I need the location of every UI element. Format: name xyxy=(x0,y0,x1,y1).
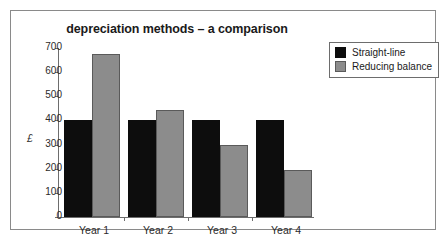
legend-label: Reducing balance xyxy=(352,61,432,72)
legend-label: Straight-line xyxy=(352,47,405,58)
chart-legend: Straight-lineReducing balance xyxy=(329,42,439,78)
bar-year-3-reducing-balance xyxy=(220,145,248,217)
y-tick-label: 600 xyxy=(22,65,62,76)
x-tick-label: Year 2 xyxy=(121,224,195,236)
bar-year-1-reducing-balance xyxy=(92,54,120,217)
bar-year-2-straight-line xyxy=(128,120,156,217)
legend-item: Straight-line xyxy=(335,47,433,58)
y-tick-label: 100 xyxy=(22,186,62,197)
y-tick-label: 700 xyxy=(22,41,62,52)
bar-year-3-straight-line xyxy=(192,120,220,217)
plot-area: £ 7006005004003002001000 Year 1Year 2Yea… xyxy=(58,48,314,242)
y-tick-label: 0 xyxy=(22,210,62,221)
x-tick-label: Year 3 xyxy=(185,224,259,236)
y-tick-label: 500 xyxy=(22,89,62,100)
legend-swatch-icon xyxy=(335,47,346,58)
x-tick-label: Year 1 xyxy=(57,224,131,236)
y-tick-label: 300 xyxy=(22,138,62,149)
chart-title: depreciation methods – a comparison xyxy=(57,22,297,36)
legend-item: Reducing balance xyxy=(335,61,433,72)
x-tick-mark xyxy=(188,217,189,221)
bar-year-4-straight-line xyxy=(256,120,284,217)
y-tick-label: 400 xyxy=(22,113,62,124)
x-tick-mark xyxy=(124,217,125,221)
bar-year-4-reducing-balance xyxy=(284,170,312,217)
bar-year-1-straight-line xyxy=(64,120,92,217)
chart-frame: depreciation methods – a comparison £ 70… xyxy=(10,10,436,230)
x-tick-mark xyxy=(252,217,253,221)
y-tick-label: 200 xyxy=(22,162,62,173)
bar-year-2-reducing-balance xyxy=(156,110,184,217)
x-axis-line xyxy=(58,217,314,218)
x-tick-label: Year 4 xyxy=(249,224,323,236)
legend-swatch-icon xyxy=(335,61,346,72)
